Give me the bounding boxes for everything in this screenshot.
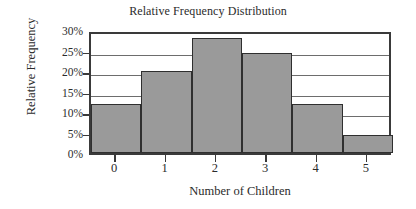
y-tick-label: 25% — [62, 47, 83, 59]
y-tick-mark — [83, 73, 90, 75]
bar-2 — [192, 38, 242, 153]
y-tick-label: 0% — [68, 149, 83, 161]
plot-area — [89, 32, 391, 155]
x-tick-label-2: 2 — [190, 162, 240, 175]
y-tick-label: 20% — [62, 67, 83, 79]
x-tick-label-0: 0 — [89, 162, 139, 175]
y-tick-label: 5% — [68, 129, 83, 141]
bar-1 — [141, 71, 191, 153]
y-tick-mark — [83, 53, 90, 55]
chart-screenshot: Relative Frequency Distribution Relative… — [0, 0, 416, 209]
bar-4 — [292, 104, 342, 153]
y-axis-title: Relative Frequency — [24, 7, 39, 127]
y-tick-mark — [83, 94, 90, 96]
bar-3 — [242, 53, 292, 153]
bar-series — [91, 34, 389, 153]
x-axis-title: Number of Children — [89, 184, 391, 199]
bar-5 — [343, 135, 393, 153]
bar-0 — [91, 104, 141, 153]
x-tick-label-5: 5 — [341, 162, 391, 175]
x-tick-label-4: 4 — [291, 162, 341, 175]
chart-title: Relative Frequency Distribution — [0, 4, 416, 19]
y-tick-label: 10% — [62, 108, 83, 120]
x-tick-label-1: 1 — [140, 162, 190, 175]
y-tick-mark — [83, 135, 90, 137]
y-tick-label: 30% — [62, 26, 83, 38]
y-tick-mark — [83, 114, 90, 116]
x-tick-label-3: 3 — [240, 162, 290, 175]
y-tick-label: 15% — [62, 88, 83, 100]
